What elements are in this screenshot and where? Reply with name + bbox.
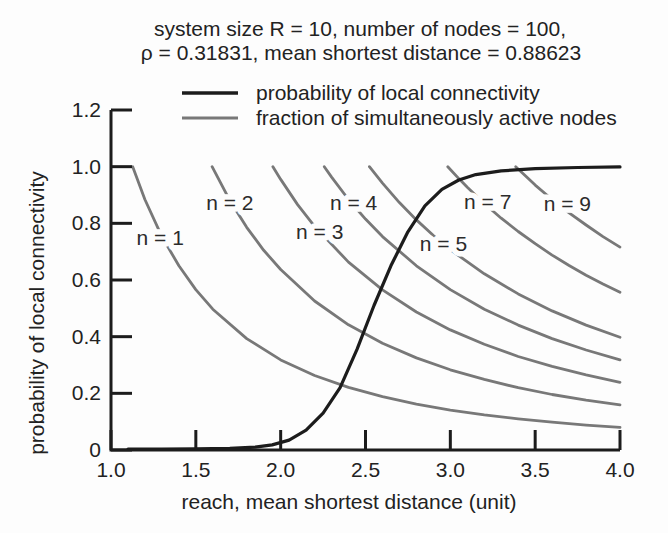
x-tick-label: 2.5 [351, 458, 380, 481]
curve-label-n-3: n = 3 [296, 220, 343, 243]
legend: probability of local connectivity fracti… [182, 81, 617, 129]
x-tick-label: 4.0 [605, 458, 634, 481]
legend-label-fraction: fraction of simultaneously active nodes [256, 106, 617, 129]
curve-label-n-4: n = 4 [330, 191, 378, 214]
curve-label-n-9: n = 9 [544, 192, 591, 215]
plot-svg: system size R = 10, number of nodes = 10… [0, 0, 668, 533]
curve-labels-group: n = 1n = 2n = 3n = 4n = 5n = 7n = 9 [137, 190, 591, 255]
y-tick-label: 1.2 [72, 98, 101, 121]
y-tick-label: 0.4 [72, 325, 102, 348]
y-tick-label: 0.8 [72, 211, 101, 234]
x-tick-label: 3.5 [521, 458, 550, 481]
legend-label-probability: probability of local connectivity [256, 81, 540, 104]
curve-label-n-1: n = 1 [137, 226, 184, 249]
tick-labels-group: 1.01.52.02.53.03.54.000.20.40.60.81.01.2 [72, 98, 635, 481]
x-tick-label: 1.0 [96, 458, 125, 481]
y-tick-label: 0 [89, 438, 101, 461]
y-axis-title: probability of local connectivity [25, 171, 48, 455]
x-axis-title: reach, mean shortest distance (unit) [182, 490, 517, 513]
chart-title-line1: system size R = 10, number of nodes = 10… [154, 17, 566, 40]
y-tick-label: 0.2 [72, 381, 101, 404]
x-tick-label: 3.0 [436, 458, 465, 481]
curve-label-n-2: n = 2 [206, 191, 253, 214]
chart-title-line2: ρ = 0.31831, mean shortest distance = 0.… [141, 41, 581, 64]
x-tick-label: 2.0 [266, 458, 295, 481]
y-tick-label: 1.0 [72, 155, 101, 178]
curve-label-n-7: n = 7 [464, 190, 511, 213]
curve-label-n-5: n = 5 [420, 232, 467, 255]
y-tick-label: 0.6 [72, 268, 101, 291]
x-tick-label: 1.5 [181, 458, 210, 481]
figure-connectivity-chart: system size R = 10, number of nodes = 10… [0, 0, 668, 533]
